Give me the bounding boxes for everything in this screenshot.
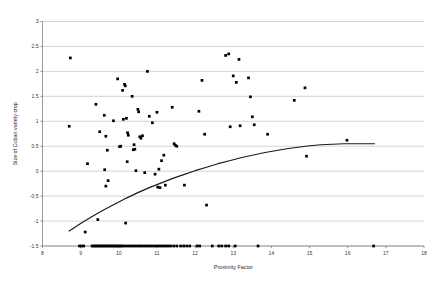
scatter-chart: -1.5-1-0.500.511.522.53 8910111213141516… — [0, 0, 435, 281]
data-point — [234, 245, 237, 248]
data-point — [293, 99, 296, 102]
data-point — [172, 245, 175, 248]
y-tick-label: 0.5 — [31, 143, 38, 149]
data-point — [247, 77, 250, 80]
y-tick-label: 3 — [36, 18, 39, 24]
x-axis-title: Proximity Factor — [214, 264, 253, 270]
data-point — [175, 245, 178, 248]
fitted-trend-curve — [69, 144, 374, 231]
x-tick-label: 12 — [192, 250, 198, 256]
data-point — [183, 184, 186, 187]
data-point — [224, 245, 227, 248]
y-tick-label: -1.5 — [30, 243, 39, 249]
data-point — [235, 81, 238, 84]
data-points — [68, 53, 375, 248]
data-point — [220, 245, 223, 248]
data-point — [257, 245, 260, 248]
data-point — [146, 70, 149, 73]
data-point — [137, 108, 140, 111]
data-point — [188, 245, 191, 248]
data-point — [175, 145, 178, 148]
data-point — [346, 139, 349, 142]
data-point — [266, 133, 269, 136]
data-point — [125, 117, 128, 120]
data-point — [164, 184, 167, 187]
data-point — [121, 89, 124, 92]
data-point — [227, 245, 230, 248]
data-point — [69, 57, 72, 60]
data-point — [304, 87, 307, 90]
data-point — [122, 118, 125, 121]
data-point — [196, 245, 199, 248]
x-tick-label: 18 — [421, 250, 427, 256]
data-point — [98, 130, 101, 133]
data-point — [211, 245, 214, 248]
data-point — [141, 134, 144, 137]
data-point — [103, 168, 106, 171]
data-point — [84, 231, 87, 234]
data-point — [131, 95, 134, 98]
data-point — [249, 95, 252, 98]
y-tick-label: -0.5 — [30, 193, 39, 199]
data-point — [140, 137, 143, 140]
data-point — [224, 54, 227, 57]
data-point — [135, 169, 138, 172]
data-point — [119, 145, 122, 148]
data-point — [154, 173, 157, 176]
data-point — [151, 121, 154, 124]
data-point — [124, 85, 127, 88]
data-point — [137, 110, 140, 113]
y-tick-label: 2.5 — [31, 43, 38, 49]
data-point — [127, 134, 130, 137]
data-point — [143, 171, 146, 174]
data-point — [107, 179, 110, 182]
x-tick-label: 10 — [116, 250, 122, 256]
data-point — [112, 119, 115, 122]
data-point — [68, 125, 71, 128]
data-point — [239, 124, 242, 127]
x-tick-label: 13 — [230, 250, 236, 256]
data-point — [372, 245, 375, 248]
data-point — [104, 185, 107, 188]
data-point — [160, 159, 163, 162]
data-point — [198, 245, 201, 248]
x-tick-label: 15 — [307, 250, 313, 256]
data-point — [126, 131, 129, 134]
data-point — [232, 75, 235, 78]
trend-line — [69, 144, 374, 231]
y-tick-label: 1.5 — [31, 93, 38, 99]
y-tick-label: 1 — [36, 118, 39, 124]
data-point — [86, 162, 89, 165]
data-point — [148, 115, 151, 118]
x-tick-label: 9 — [79, 250, 82, 256]
x-tick-labels: 89101112131415161718 — [41, 250, 427, 256]
data-point — [159, 186, 162, 189]
y-axis-line — [40, 22, 42, 247]
x-tick-label: 14 — [269, 250, 275, 256]
y-tick-labels: -1.5-1-0.500.511.522.53 — [30, 18, 39, 249]
data-point — [104, 135, 107, 138]
data-point — [82, 245, 85, 248]
plot-area: -1.5-1-0.500.511.522.53 8910111213141516… — [0, 0, 435, 281]
data-point — [95, 103, 98, 106]
data-point — [162, 154, 165, 157]
data-point — [182, 245, 185, 248]
data-point — [198, 110, 201, 113]
y-tick-label: 2 — [36, 68, 39, 74]
y-tick-label: 0 — [36, 168, 39, 174]
data-point — [103, 114, 106, 117]
data-point — [96, 218, 99, 221]
data-point — [126, 160, 129, 163]
data-point — [205, 204, 208, 207]
data-point — [124, 222, 127, 225]
data-point — [253, 123, 256, 126]
data-point — [185, 245, 188, 248]
data-point — [156, 111, 159, 114]
data-point — [171, 106, 174, 109]
data-point — [133, 143, 136, 146]
data-point — [251, 115, 254, 118]
data-point — [179, 245, 182, 248]
data-point — [227, 53, 230, 56]
data-point — [229, 125, 232, 128]
x-tick-label: 16 — [345, 250, 351, 256]
